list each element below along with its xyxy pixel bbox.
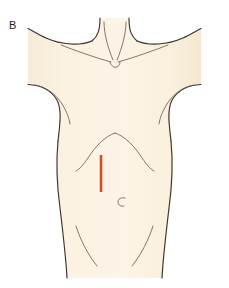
- figure-panel: B: [0, 0, 229, 288]
- torso-fill: [28, 18, 201, 278]
- torso-illustration: [0, 0, 229, 288]
- torso-body-shape: [28, 18, 201, 278]
